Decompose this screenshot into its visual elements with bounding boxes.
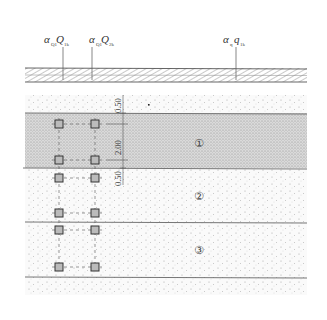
pile [55, 263, 63, 271]
Q-subscript: 2k [109, 42, 115, 47]
pile [91, 209, 99, 217]
pile [91, 174, 99, 182]
layer-1-label: ① [194, 137, 204, 150]
alpha-symbol: α [89, 33, 95, 45]
layer-3-label: ③ [194, 244, 204, 257]
pile [55, 156, 63, 164]
soil-section [23, 95, 307, 295]
Q-subscript: 1k [64, 42, 70, 47]
Q-symbol: Q [56, 33, 64, 45]
pile [91, 226, 99, 234]
dimension-bottom: 0.50 [113, 171, 123, 186]
pile [55, 209, 63, 217]
pile-foundation-diagram: α Q1 Q 1k α Q1 Q 2k α q q 1k [0, 0, 327, 320]
stray-dot [148, 104, 150, 106]
alpha-subscript: q [230, 42, 233, 47]
layer-2 [25, 168, 307, 222]
alpha-symbol: α [44, 33, 50, 45]
Q-symbol: Q [101, 33, 109, 45]
pile [55, 120, 63, 128]
layer-1 [25, 113, 307, 168]
top-soil [25, 95, 307, 113]
pile [91, 120, 99, 128]
q-subscript: 1k [240, 42, 246, 47]
pile [55, 174, 63, 182]
load-label-q1k-distributed: α q q 1k [223, 33, 246, 47]
layer-3 [25, 222, 307, 277]
pile [55, 226, 63, 234]
layer-2-label: ② [194, 190, 204, 203]
alpha-symbol: α [223, 33, 229, 45]
bottom-soil [25, 277, 307, 295]
load-label-q1k: α Q1 Q 1k [44, 33, 70, 47]
pile [91, 263, 99, 271]
pile [91, 156, 99, 164]
dimension-middle: 2.00 [113, 140, 123, 155]
slab [25, 68, 307, 82]
dimension-top: 0.50 [113, 98, 123, 113]
load-label-q2k: α Q1 Q 2k [89, 33, 115, 47]
